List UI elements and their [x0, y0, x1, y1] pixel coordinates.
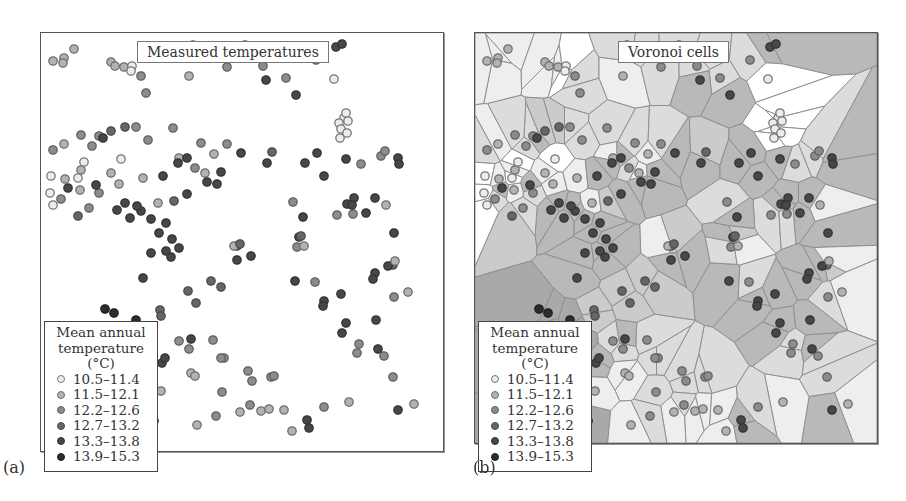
- legend-item: 10.5–11.4: [483, 372, 587, 388]
- panel-measured-temperatures: Measured temperatures Mean annual temper…: [40, 32, 444, 452]
- legend-swatch-icon: [57, 391, 65, 399]
- legend-title-line2: temperature (°C): [483, 341, 587, 372]
- legend-swatch-icon: [57, 375, 65, 383]
- legend: Mean annual temperature (°C) 10.5–11.411…: [44, 321, 158, 472]
- legend: Mean annual temperature (°C) 10.5–11.411…: [478, 321, 592, 472]
- legend-item: 13.9–15.3: [483, 449, 587, 465]
- legend-title-line1: Mean annual: [49, 325, 153, 341]
- panel-label-b: (b): [473, 458, 496, 477]
- legend-label: 12.2–12.6: [73, 403, 140, 419]
- legend-rows: 10.5–11.411.5–12.112.2–12.612.7–13.213.3…: [483, 372, 587, 465]
- legend-swatch-icon: [491, 375, 499, 383]
- legend-item: 10.5–11.4: [49, 372, 153, 388]
- legend-swatch-icon: [491, 422, 499, 430]
- legend-item: 11.5–12.1: [483, 387, 587, 403]
- legend-label: 13.9–15.3: [507, 449, 574, 465]
- legend-item: 13.9–15.3: [49, 449, 153, 465]
- legend-swatch-icon: [57, 422, 65, 430]
- panel-label-a: (a): [3, 458, 25, 477]
- legend-item: 13.3–13.8: [49, 434, 153, 450]
- legend-item: 12.7–13.2: [483, 418, 587, 434]
- legend-swatch-icon: [491, 391, 499, 399]
- legend-item: 11.5–12.1: [49, 387, 153, 403]
- panel-title: Voronoi cells: [618, 41, 729, 63]
- panel-title: Measured temperatures: [137, 41, 329, 63]
- legend-label: 10.5–11.4: [507, 372, 574, 388]
- legend-label: 13.3–13.8: [507, 434, 574, 450]
- panel-voronoi-cells: Voronoi cells Mean annual temperature (°…: [474, 32, 878, 444]
- legend-label: 10.5–11.4: [73, 372, 140, 388]
- legend-label: 11.5–12.1: [73, 387, 140, 403]
- legend-label: 12.7–13.2: [73, 418, 140, 434]
- legend-item: 12.7–13.2: [49, 418, 153, 434]
- legend-swatch-icon: [57, 453, 65, 461]
- legend-item: 12.2–12.6: [49, 403, 153, 419]
- legend-swatch-icon: [57, 437, 65, 445]
- legend-label: 13.9–15.3: [73, 449, 140, 465]
- legend-label: 13.3–13.8: [73, 434, 140, 450]
- legend-label: 12.7–13.2: [507, 418, 574, 434]
- legend-rows: 10.5–11.411.5–12.112.2–12.612.7–13.213.3…: [49, 372, 153, 465]
- legend-swatch-icon: [491, 437, 499, 445]
- legend-title-line1: Mean annual: [483, 325, 587, 341]
- legend-swatch-icon: [57, 406, 65, 414]
- legend-swatch-icon: [491, 406, 499, 414]
- legend-title-line2: temperature (°C): [49, 341, 153, 372]
- legend-item: 12.2–12.6: [483, 403, 587, 419]
- legend-item: 13.3–13.8: [483, 434, 587, 450]
- legend-label: 11.5–12.1: [507, 387, 574, 403]
- legend-label: 12.2–12.6: [507, 403, 574, 419]
